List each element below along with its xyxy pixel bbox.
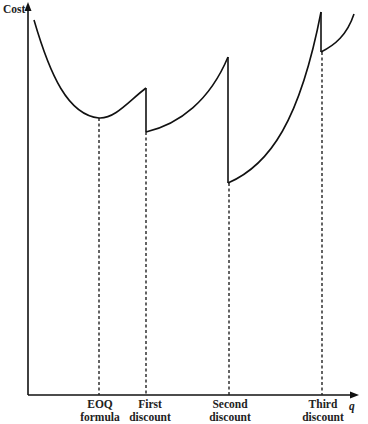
eoq-label-line1: EOQ — [80, 398, 120, 411]
first-label-line2: discount — [126, 411, 174, 424]
x-axis-arrow-icon — [350, 392, 359, 399]
y-axis-label: Cost — [3, 3, 25, 15]
eoq-label: EOQ formula — [80, 398, 120, 424]
second-label-line1: Second — [206, 398, 254, 411]
cost-curve — [34, 12, 354, 183]
x-axis-label: q — [349, 400, 355, 412]
second-label-line2: discount — [206, 411, 254, 424]
segment-base — [34, 20, 146, 118]
third-label-line1: Third — [299, 398, 347, 411]
third-discount-label: Third discount — [299, 398, 347, 424]
first-label-line1: First — [126, 398, 174, 411]
y-axis-arrow-icon — [25, 2, 32, 11]
third-label-line2: discount — [299, 411, 347, 424]
chart-canvas — [0, 0, 368, 424]
segment-second — [228, 12, 321, 183]
segment-first — [146, 57, 228, 132]
segment-third — [321, 14, 354, 52]
second-discount-label: Second discount — [206, 398, 254, 424]
marker-lines — [99, 52, 322, 395]
eoq-label-line2: formula — [80, 411, 120, 424]
first-discount-label: First discount — [126, 398, 174, 424]
